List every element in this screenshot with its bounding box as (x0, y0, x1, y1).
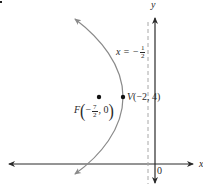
focus-label: F(−72, 0) (74, 103, 114, 119)
origin-label: 0 (157, 166, 162, 176)
focus-fraction: 72 (92, 104, 98, 119)
parabola-diagram: y x 0 x = −12 V(−2, 4) F(−72, 0) (0, 0, 203, 185)
focus-point (97, 95, 101, 99)
directrix-lhs: x = − (116, 46, 139, 57)
vertex-label: V(−2, 4) (127, 92, 160, 102)
y-axis-label: y (151, 0, 155, 10)
vertex-point (121, 95, 125, 99)
graph-canvas (0, 0, 203, 185)
directrix-fraction: 12 (140, 45, 146, 60)
directrix-label: x = −12 (116, 45, 146, 60)
x-axis-label: x (199, 159, 203, 169)
corner-mark (0, 1, 2, 3)
